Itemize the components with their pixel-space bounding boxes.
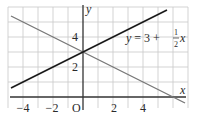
svg-text:1: 1	[174, 28, 178, 37]
svg-text:2: 2	[174, 40, 178, 49]
x-tick-label: 4	[140, 101, 146, 115]
svg-text:y = 3 +: y = 3 +	[125, 31, 160, 45]
chart-canvas: x y O −4 −2 2 4 4 2 y = 3 + 1 2 x	[0, 0, 200, 121]
equation-label: y = 3 + 1 2 x	[125, 28, 186, 49]
x-tick-label: 2	[111, 101, 117, 115]
y-tick-label: 2	[72, 60, 78, 74]
x-tick-label: −2	[46, 101, 59, 115]
x-axis-label: x	[179, 83, 186, 97]
svg-text:x: x	[179, 31, 186, 45]
origin-label: O	[72, 101, 81, 115]
x-tick-label: −4	[17, 101, 30, 115]
y-tick-label: 4	[72, 30, 78, 44]
y-axis-label: y	[85, 2, 92, 16]
grid	[8, 7, 188, 108]
